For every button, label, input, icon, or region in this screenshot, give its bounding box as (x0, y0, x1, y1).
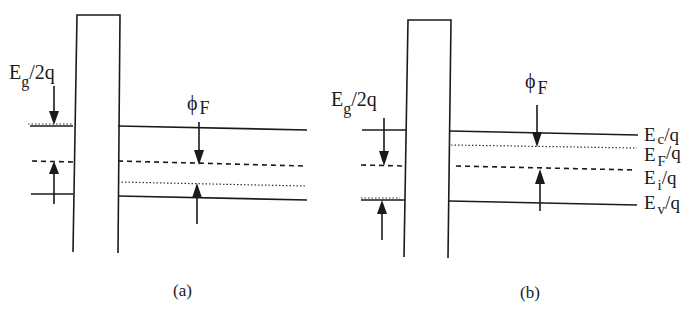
label-ei: Ei/q (644, 167, 677, 193)
right-ec-b (450, 131, 638, 135)
panel-b: Eg/2q ϕF Ec/q EF/q Ei/q Ev/q (331, 20, 681, 302)
eg-half-label-a: Eg/2q (9, 61, 55, 91)
oxide-barrier-b (404, 20, 451, 258)
right-ei-b (456, 166, 636, 170)
phi-f-label-b: ϕF (525, 70, 548, 98)
oxide-barrier-a (73, 15, 120, 253)
phi-f-label-a: ϕF (187, 92, 210, 118)
phi-f-arrow-up-a (192, 183, 202, 224)
caption-a: (a) (173, 281, 192, 300)
left-ei-a (32, 161, 73, 162)
eg-half-label-b: Eg/2q (331, 88, 377, 118)
label-ev: Ev/q (644, 192, 680, 217)
right-ef-b (451, 145, 637, 148)
band-diagram-figure: Eg/2q ϕF (a) (0, 0, 694, 311)
phi-f-arrow-down-b (532, 105, 542, 147)
panel-a: Eg/2q ϕF (a) (9, 15, 307, 300)
right-ei-a (118, 161, 305, 166)
right-ev-b (449, 201, 637, 205)
caption-b: (b) (520, 283, 540, 302)
eg-half-arrow-down-a (49, 86, 59, 125)
phi-f-arrow-up-b (535, 169, 545, 211)
eg-half-arrow-down-b (379, 118, 389, 166)
eg-half-arrow-up-b (377, 200, 387, 240)
eg-half-arrow-up-a (49, 161, 59, 204)
left-ei-b (361, 165, 405, 166)
right-ec-a (118, 126, 307, 130)
right-ev-a (118, 196, 307, 200)
right-ef-a (118, 182, 305, 186)
